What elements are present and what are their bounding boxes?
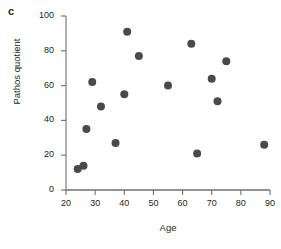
x-tick-label: 50	[142, 198, 164, 208]
data-point	[97, 102, 105, 110]
x-tick-label: 30	[84, 198, 106, 208]
data-point	[88, 78, 96, 86]
y-tick-label: 40	[28, 114, 54, 124]
y-axis-ticks	[61, 16, 66, 190]
x-tick-label: 60	[172, 198, 194, 208]
data-point	[193, 149, 201, 157]
y-tick-label: 100	[28, 10, 54, 20]
axis-lines	[66, 16, 270, 190]
data-point	[208, 75, 216, 83]
data-point	[79, 162, 87, 170]
data-point	[135, 52, 143, 60]
data-point	[82, 125, 90, 133]
x-tick-label: 40	[113, 198, 135, 208]
x-tick-label: 80	[230, 198, 252, 208]
data-point	[164, 82, 172, 90]
y-tick-label: 80	[28, 45, 54, 55]
y-tick-label: 20	[28, 149, 54, 159]
data-point-group	[74, 28, 269, 173]
x-axis-ticks	[66, 190, 270, 195]
data-point	[260, 141, 268, 149]
x-tick-label: 90	[259, 198, 281, 208]
data-point	[222, 57, 230, 65]
scatter-plot-figure: c Pathos quotient Age 020406080100 20304…	[0, 0, 281, 249]
data-point	[123, 28, 131, 36]
data-point	[112, 139, 120, 147]
y-tick-label: 0	[28, 184, 54, 194]
x-tick-label: 70	[201, 198, 223, 208]
data-point	[120, 90, 128, 98]
plot-canvas	[0, 0, 281, 249]
data-point	[214, 97, 222, 105]
data-point	[187, 40, 195, 48]
y-tick-label: 60	[28, 80, 54, 90]
x-tick-label: 20	[55, 198, 77, 208]
